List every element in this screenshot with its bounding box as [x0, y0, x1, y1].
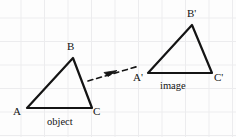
transformation-diagram: A B C B' A' C' object image: [0, 0, 236, 137]
vertex-label-c-prime: C': [214, 72, 223, 83]
vertex-label-a: A: [13, 106, 21, 117]
diagram-ink-layer: [0, 0, 236, 137]
vertex-label-b: B: [67, 41, 74, 52]
object-triangle: [27, 58, 92, 108]
vertex-label-c: C: [93, 106, 100, 117]
image-triangle: [148, 25, 212, 73]
transformation-arrow-line: [88, 66, 139, 81]
object-caption: object: [47, 117, 73, 128]
vertex-label-b-prime: B': [187, 8, 196, 19]
image-caption: image: [160, 81, 186, 92]
vertex-label-a-prime: A': [133, 72, 143, 83]
